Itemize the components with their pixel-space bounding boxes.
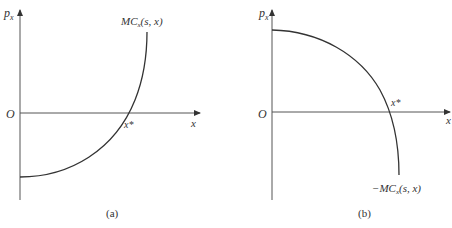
origin-label-a: O xyxy=(6,107,15,121)
x-star-label-a: x* xyxy=(123,119,133,130)
y-axis-label-a: px xyxy=(3,6,14,22)
mc-curve-a xyxy=(20,32,147,177)
origin-label-b: O xyxy=(258,107,267,121)
x-axis-label-a: x xyxy=(190,117,196,129)
panel-b: px O x* x −MCx(s, x) (b) xyxy=(258,6,451,220)
x-axis-label-b: x xyxy=(445,114,451,126)
curve-label-a: MCx(s, x) xyxy=(120,15,163,29)
panel-a: px O x* x MCx(s, x) (a) xyxy=(3,6,200,220)
y-axis-label-b: px xyxy=(258,6,269,22)
neg-mc-curve-b xyxy=(272,30,399,175)
x-star-label-b: x* xyxy=(390,97,400,108)
caption-a: (a) xyxy=(106,207,119,220)
diagram-canvas: px O x* x MCx(s, x) (a) px O x* x −MCx(s… xyxy=(0,0,452,228)
curve-label-b: −MCx(s, x) xyxy=(372,182,421,196)
caption-b: (b) xyxy=(358,207,371,220)
